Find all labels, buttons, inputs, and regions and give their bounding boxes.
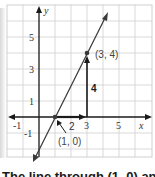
y-axis-label: y (43, 5, 49, 16)
point-1-0 (53, 115, 58, 120)
figure-caption: The line through (1, 0) and (3, 4) (2, 165, 155, 177)
figure: y x -1 3 5 5 3 1 -1 4 2 (0, 0, 155, 177)
coordinate-plane: y x -1 3 5 5 3 1 -1 4 2 (0, 0, 155, 162)
tick-x-neg1: -1 (13, 120, 21, 131)
run-label: 2 (69, 121, 75, 132)
tick-y-5: 5 (29, 32, 34, 43)
tick-x-3: 3 (84, 120, 89, 131)
rise-label: 4 (91, 83, 97, 94)
tick-x-5: 5 (116, 120, 121, 131)
point-b-label: (1, 0) (58, 136, 81, 147)
tick-y-1: 1 (29, 96, 34, 107)
tick-y-3: 3 (29, 64, 34, 75)
point-3-4 (85, 51, 90, 56)
x-axis-label: x (138, 120, 144, 131)
point-a-label: (3, 4) (95, 49, 118, 60)
tick-y-neg1: -1 (24, 128, 32, 139)
